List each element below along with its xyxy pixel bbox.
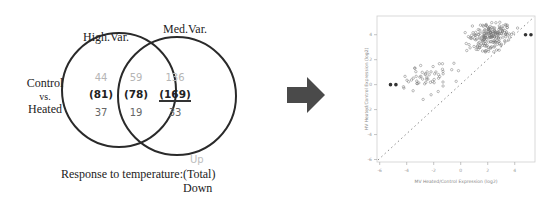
med-only-total-value: (169)	[159, 88, 191, 102]
svg-text:-6: -6	[377, 168, 382, 173]
venn-diagram: High.Var. Med.Var. Control vs. Heated 44…	[0, 0, 280, 205]
svg-text:0: 0	[459, 168, 462, 173]
side-label-line-3: Heated	[19, 103, 71, 116]
svg-text:0: 0	[369, 82, 372, 87]
svg-text:2: 2	[369, 57, 372, 62]
svg-text:-4: -4	[404, 168, 409, 173]
high-only-total: (81)	[84, 88, 118, 100]
identity-line	[378, 17, 534, 160]
high-only-down: 37	[84, 107, 118, 118]
high-var-label: High.Var.	[83, 30, 129, 45]
high-only-up: 44	[84, 72, 118, 83]
scatter-svg: -6-4-2024-6-4-2024 MV Heated/Control Exp…	[360, 0, 556, 205]
y-axis-label: HV Heated/Control Expression (log2)	[364, 48, 369, 131]
data-points	[389, 21, 533, 101]
overlap-down: 19	[119, 107, 153, 118]
med-only-total: (169)	[158, 88, 192, 100]
scatter-plot: -6-4-2024-6-4-2024 MV Heated/Control Exp…	[360, 0, 556, 205]
right-arrow-icon	[287, 77, 325, 113]
overlap-total: (78)	[119, 88, 153, 100]
svg-text:-4: -4	[368, 132, 373, 137]
svg-text:-2: -2	[431, 168, 436, 173]
svg-text:-6: -6	[368, 157, 373, 162]
legend-total: Response to temperature:(Total)	[61, 167, 215, 182]
svg-text:2: 2	[486, 168, 489, 173]
x-axis-label: MV Heated/Control Expression (log2)	[415, 179, 498, 184]
comparison-label: Control vs. Heated	[19, 77, 71, 116]
overlap-up: 59	[119, 72, 153, 83]
side-label-line-1: Control	[19, 77, 71, 90]
med-only-down: 33	[158, 107, 192, 118]
med-var-label: Med.Var.	[163, 22, 207, 37]
med-only-up: 136	[158, 72, 192, 83]
svg-text:4: 4	[369, 32, 372, 37]
legend-down: Down	[183, 181, 212, 196]
svg-text:4: 4	[513, 168, 516, 173]
legend-up: Up	[190, 154, 204, 165]
